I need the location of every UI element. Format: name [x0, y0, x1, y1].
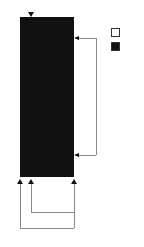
sleeve-bracket-side	[96, 38, 97, 155]
sleeve-arrow-top-icon	[74, 36, 79, 40]
key-ms-swatch	[111, 28, 120, 37]
pants-bracket-left	[20, 184, 21, 228]
chart-grid	[20, 17, 74, 177]
key-c-swatch	[111, 42, 120, 51]
bracket-right	[74, 184, 75, 228]
sleeve-bracket-top	[76, 38, 96, 39]
pants-bracket-bottom	[20, 228, 74, 229]
top-arrow-icon	[28, 12, 34, 17]
pattern-bracket-bottom	[31, 212, 74, 213]
top-marker-line	[30, 17, 31, 52]
pattern-bracket-left	[31, 184, 32, 212]
sleeve-bracket-bottom	[76, 155, 96, 156]
sleeve-arrow-bottom-icon	[74, 153, 79, 157]
